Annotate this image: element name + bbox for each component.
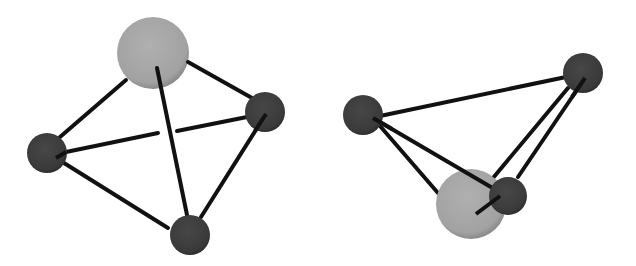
atom-large (117, 17, 189, 89)
atom-small (343, 95, 383, 135)
atom-small (563, 53, 603, 93)
atom-small (489, 177, 527, 215)
bond-a-d (157, 68, 187, 215)
bond-a-c (188, 62, 252, 98)
molecule-diagram (0, 0, 636, 266)
right-view (343, 53, 603, 239)
bond-b-d (56, 158, 168, 228)
bond-b-a (380, 126, 438, 193)
bond-b-c-part2 (177, 117, 247, 131)
bond-c-a (493, 88, 568, 178)
bond-b-c (380, 77, 566, 116)
bond-a-b (60, 80, 126, 137)
left-view (27, 17, 285, 255)
bond-b-c (66, 133, 158, 152)
atom-small (245, 92, 285, 132)
atom-small (170, 215, 210, 255)
